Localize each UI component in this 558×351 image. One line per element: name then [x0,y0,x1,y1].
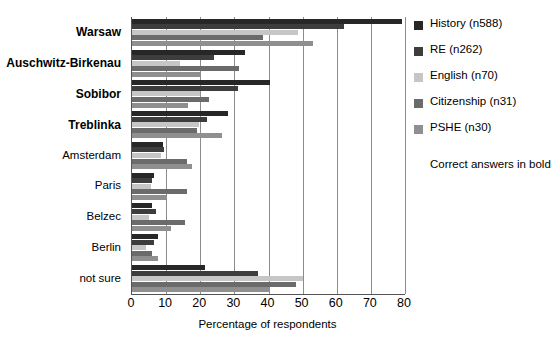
x-tick-label: 70 [363,296,377,310]
bar [132,209,156,214]
bar [132,184,151,189]
legend-label: English (n70) [430,69,498,81]
bar [132,256,158,261]
legend-swatch-icon [414,99,423,108]
bar [132,147,164,152]
bar [132,61,180,66]
bar-group [132,140,405,171]
legend-label: Citizenship (n31) [430,95,516,107]
bar [132,195,166,200]
bar [132,97,209,102]
plot-area [131,17,405,294]
bar [132,234,158,239]
legend-item[interactable]: PSHE (n30) [414,122,554,148]
bar [132,41,313,46]
legend-item[interactable]: Citizenship (n31) [414,96,554,122]
category-label: Amsterdam [62,149,121,161]
bar [132,276,303,281]
category-label: Belzec [86,210,121,222]
x-tick-label: 0 [128,296,135,310]
bar-group [132,48,405,79]
bar [132,35,263,40]
legend-swatch-icon [414,21,423,30]
bar [132,245,146,250]
legend-note: Correct answers in bold [430,158,551,170]
chart-figure: WarsawAuschwitz-BirkenauSobiborTreblinka… [0,0,558,351]
x-tick-label: 40 [261,296,275,310]
bar [132,24,344,29]
legend: History (n588)RE (n262)English (n70)Citi… [414,18,554,148]
category-label: Auschwitz-Birkenau [6,56,121,70]
x-tick-label: 30 [226,296,240,310]
bar [132,50,245,55]
bar [132,287,269,292]
bar [132,111,228,116]
x-tick-label: 10 [158,296,172,310]
x-tick-label: 80 [397,296,411,310]
bar [132,72,200,77]
bar [132,19,402,24]
legend-item[interactable]: English (n70) [414,70,554,96]
bar-group [132,202,405,233]
x-axis-title: Percentage of respondents [131,318,404,330]
bar [132,282,296,287]
legend-label: RE (n262) [430,43,482,55]
category-label: Treblinka [68,118,121,132]
bar [132,66,239,71]
category-label: Warsaw [76,25,121,39]
bar [132,271,258,276]
bar [132,164,192,169]
bar [132,142,163,147]
bar [132,203,152,208]
x-tick-label: 50 [295,296,309,310]
category-label: not sure [79,272,121,284]
category-label: Paris [95,179,121,191]
bar [132,173,154,178]
category-label: Berlin [92,241,121,253]
bar-group [132,263,405,294]
bar [132,55,214,60]
bar [132,117,207,122]
bar [132,220,185,225]
bar-group [132,79,405,110]
bar-group [132,17,405,48]
legend-swatch-icon [414,47,423,56]
bar [132,80,270,85]
x-tick-label: 20 [192,296,206,310]
category-label: Sobibor [76,87,121,101]
bar [132,159,187,164]
bar [132,153,161,158]
bar-group [132,171,405,202]
legend-swatch-icon [414,73,423,82]
gridline [405,17,406,294]
bar [132,103,188,108]
bar-group [132,109,405,140]
bar [132,265,205,270]
bar [132,178,152,183]
bar [132,189,187,194]
bar [132,128,197,133]
bar [132,91,200,96]
bar-group [132,232,405,263]
bar [132,215,149,220]
legend-item[interactable]: History (n588) [414,18,554,44]
bar [132,226,171,231]
x-tick-label: 60 [329,296,343,310]
bar [132,251,152,256]
bar [132,133,222,138]
legend-label: History (n588) [430,17,502,29]
legend-label: PSHE (n30) [430,121,491,133]
bar [132,240,154,245]
legend-item[interactable]: RE (n262) [414,44,554,70]
x-axis-ticks: 01020304050607080 [131,296,404,312]
bar [132,30,298,35]
legend-swatch-icon [414,125,423,134]
bar [132,122,199,127]
category-axis-labels: WarsawAuschwitz-BirkenauSobiborTreblinka… [0,17,126,294]
bar [132,86,238,91]
